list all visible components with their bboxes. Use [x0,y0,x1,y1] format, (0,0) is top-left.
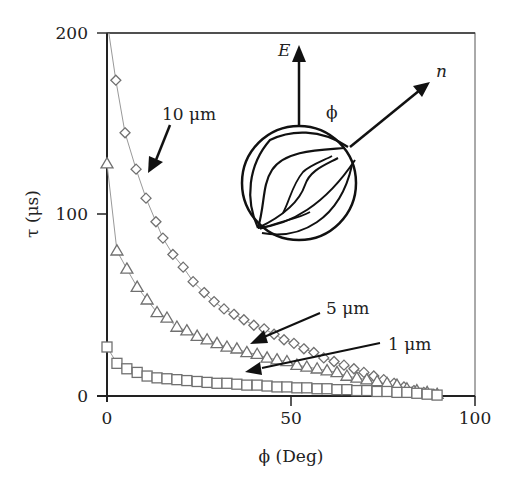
data-point-diamond [299,344,309,354]
data-point-triangle [151,307,163,317]
data-point-diamond [131,164,141,174]
y-tick-label-100: 100 [56,204,88,224]
data-point-diamond [158,233,168,243]
y-tick-label-200: 200 [56,23,88,43]
data-point-diamond [141,193,151,203]
data-point-square [372,386,382,396]
y-axis-title: τ (μs) [22,190,42,238]
data-point-diamond [178,262,188,272]
data-point-square [142,371,152,381]
data-point-triangle [141,294,153,304]
data-point-diamond [329,357,339,367]
data-point-square [382,386,392,396]
data-point-diamond [279,335,289,345]
data-point-square [272,382,282,392]
data-point-square [292,383,302,393]
data-point-square [392,387,402,397]
data-point-square [432,390,442,400]
data-point-diamond [219,304,229,314]
data-point-square [102,342,112,352]
data-point-square [162,374,172,384]
data-point-diamond [168,249,178,259]
data-point-diamond [229,309,239,319]
data-point-diamond [239,315,249,325]
data-point-square [362,386,372,396]
label-10um: 10 μm [162,104,216,124]
normal-arrow [350,90,420,147]
data-point-square [342,385,352,395]
x-tick-label-50: 50 [280,408,302,428]
data-point-diamond [120,128,130,138]
data-point-square [122,364,132,374]
data-point-diamond [151,217,161,227]
data-point-square [282,382,292,392]
x-tick-label-100: 100 [459,408,491,428]
data-point-square [422,389,432,399]
label-phi: ϕ [326,102,338,122]
chart-canvas: 200 100 0 0 50 100 ϕ (Deg) τ (μs) 10 μm … [0,0,511,490]
data-point-diamond [249,320,259,330]
series-line-10um [109,33,434,394]
label-5um: 5 μm [326,298,369,318]
data-point-square [222,378,232,388]
data-point-diamond [111,75,121,85]
data-point-square [402,387,412,397]
label-E: E [277,40,291,60]
y-tick-label-0: 0 [77,386,88,406]
data-point-square [112,358,122,368]
data-point-square [332,385,342,395]
x-tick-label-0: 0 [102,408,113,428]
label-1um: 1 μm [388,334,431,354]
label-n: n [436,61,447,81]
data-point-square [412,388,422,398]
data-point-square [322,384,332,394]
data-point-square [182,376,192,386]
data-point-diamond [339,360,349,370]
e-field-arrowhead [292,45,306,62]
data-point-square [252,380,262,390]
data-point-square [212,378,222,388]
data-point-square [132,367,142,377]
data-point-square [242,380,252,390]
data-point-square [202,377,212,387]
inset-particle-diagram: E n ϕ [242,40,447,240]
data-point-triangle [131,281,143,291]
data-point-square [262,381,272,391]
data-point-square [152,373,162,383]
arrow-10um [148,125,170,173]
data-point-diamond [289,338,299,348]
data-point-square [192,376,202,386]
data-point-square [172,375,182,385]
data-point-square [312,384,322,394]
data-point-square [232,379,242,389]
data-point-triangle [101,158,113,168]
x-axis-title: ϕ (Deg) [259,446,324,466]
data-point-triangle [111,245,123,255]
data-point-triangle [121,263,133,273]
data-point-square [302,383,312,393]
data-point-square [352,386,362,396]
